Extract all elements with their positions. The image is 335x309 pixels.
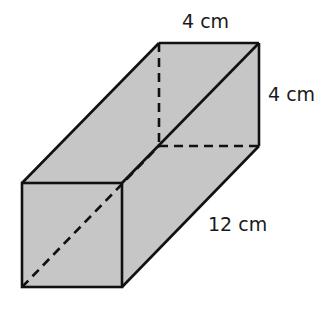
label-right-height: 4 cm [268,83,315,105]
rectangular-prism-diagram: 4 cm 4 cm 12 cm [0,0,335,309]
label-top-width: 4 cm [182,10,229,32]
label-length: 12 cm [208,213,267,235]
